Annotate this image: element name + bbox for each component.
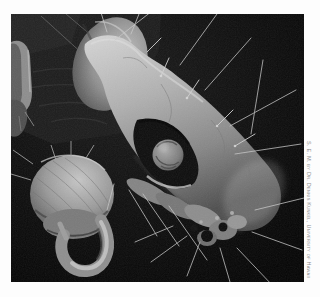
sem-photo-drawing	[11, 14, 304, 282]
page: S. E. M. by Dr. Dennis Kunkel, Universit…	[0, 0, 320, 297]
photo-credit: S. E. M. by Dr. Dennis Kunkel, Universit…	[306, 14, 312, 278]
film-grain-overlay	[11, 14, 304, 282]
sem-photograph	[11, 14, 304, 282]
